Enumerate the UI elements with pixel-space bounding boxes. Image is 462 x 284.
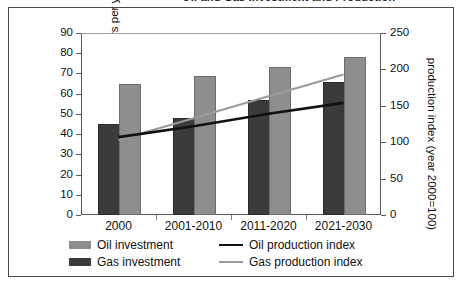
legend-label-oil-production-index: Oil production index (249, 238, 355, 252)
left-tick-label: 40 (47, 128, 73, 140)
legend-label-gas-investment: Gas investment (97, 255, 180, 269)
right-axis-title: production index (year 2000=100) (423, 30, 462, 48)
plot-area: 0102030405060708090 050100150200250 2000… (81, 33, 381, 215)
left-tick-label: 90 (47, 27, 73, 39)
right-tick-mark (381, 142, 386, 143)
left-tick-label: 50 (47, 108, 73, 120)
right-tick-mark (381, 215, 386, 216)
right-tick-mark (381, 179, 386, 180)
legend-item-oil-investment: Oil investment (69, 238, 219, 252)
legend-swatch-oil-production-index-icon (219, 244, 243, 246)
legend-label-gas-production-index: Gas production index (249, 255, 362, 269)
left-tick-label: 30 (47, 148, 73, 160)
left-tick-label: 0 (47, 209, 73, 221)
left-tick-label: 10 (47, 189, 73, 201)
legend-swatch-gas-investment-icon (69, 258, 91, 266)
right-axis-title-text: production index (year 2000=100) (426, 29, 438, 259)
right-tick-label: 100 (390, 136, 409, 148)
right-tick-mark (381, 106, 386, 107)
page-title: Oil and Gas Investment and Production (182, 0, 395, 3)
right-tick-mark (381, 69, 386, 70)
x-axis-label: 2021-2030 (299, 219, 389, 233)
legend-label-oil-investment: Oil investment (97, 238, 173, 252)
right-tick-mark (381, 33, 386, 34)
legend-item-gas-investment: Gas investment (69, 255, 219, 269)
legend-swatch-gas-production-index-icon (219, 261, 243, 263)
right-tick-label: 0 (390, 209, 396, 221)
figure-frame: billion dollars per year production inde… (8, 7, 454, 277)
left-tick-label: 20 (47, 169, 73, 181)
left-axis-title: billion dollars per year (23, 0, 41, 51)
right-tick-label: 250 (390, 27, 409, 39)
right-tick-label: 50 (390, 173, 403, 185)
legend-item-gas-production-index: Gas production index (219, 255, 429, 269)
left-tick-mark (76, 215, 81, 216)
right-tick-label: 150 (390, 100, 409, 112)
legend-swatch-oil-investment-icon (69, 241, 91, 249)
left-tick-label: 60 (47, 88, 73, 100)
lines-layer (81, 33, 381, 215)
chart-legend: Oil investment Oil production index Gas … (69, 236, 429, 270)
chart-title-strip: Oil and Gas Investment and Production (0, 0, 462, 6)
left-tick-label: 80 (47, 47, 73, 59)
right-tick-label: 200 (390, 63, 409, 75)
legend-item-oil-production-index: Oil production index (219, 238, 429, 252)
left-tick-label: 70 (47, 67, 73, 79)
